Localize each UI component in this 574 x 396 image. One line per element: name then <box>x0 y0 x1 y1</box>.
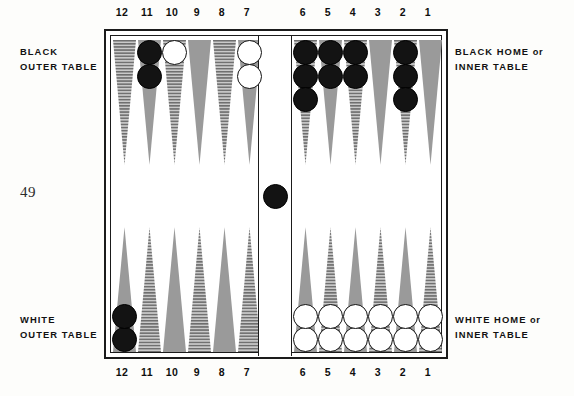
label-black-home-line2: INNER TABLE <box>455 60 543 75</box>
checker-white-point-bottom-5[interactable] <box>318 304 343 329</box>
point-bottom-11[interactable] <box>138 227 161 352</box>
checker-white-point-bottom-2[interactable] <box>393 304 418 329</box>
checker-black-point-top-2[interactable] <box>393 87 418 112</box>
quadrant-white-home-table <box>292 196 445 356</box>
quadrant-black-outer-table <box>111 36 258 196</box>
page-number: 49 <box>20 184 36 201</box>
label-black-outer-table: BLACK OUTER TABLE <box>20 45 98 74</box>
point-number-top-5: 5 <box>316 6 340 18</box>
label-white-home-main: WHITE HOME <box>455 314 526 325</box>
label-black-home-line1: BLACK HOME or <box>455 45 543 60</box>
point-number-top-4: 4 <box>341 6 365 18</box>
checker-white-point-bottom-1[interactable] <box>418 327 443 352</box>
checker-white-point-bottom-3[interactable] <box>368 304 393 329</box>
quadrant-white-outer-table <box>111 196 258 356</box>
board-inner-frame <box>110 35 442 353</box>
point-number-bottom-5: 5 <box>316 366 340 378</box>
point-number-top-6: 6 <box>291 6 315 18</box>
checker-white-point-top-7[interactable] <box>237 40 262 65</box>
point-number-top-1: 1 <box>416 6 440 18</box>
point-bottom-10[interactable] <box>163 227 186 352</box>
checker-black-point-top-6[interactable] <box>293 40 318 65</box>
checker-white-point-top-7[interactable] <box>237 64 262 89</box>
point-top-1[interactable] <box>419 40 442 165</box>
point-number-bottom-6: 6 <box>291 366 315 378</box>
point-number-bottom-11: 11 <box>135 366 159 378</box>
point-number-top-8: 8 <box>210 6 234 18</box>
point-number-top-2: 2 <box>391 6 415 18</box>
backgammon-diagram: 49 BLACK OUTER TABLE WHITE OUTER TABLE B… <box>0 0 574 396</box>
checker-white-point-bottom-4[interactable] <box>343 327 368 352</box>
point-number-top-11: 11 <box>135 6 159 18</box>
checker-black-point-top-4[interactable] <box>343 40 368 65</box>
label-black-outer-line1: BLACK <box>20 45 98 60</box>
point-number-bottom-10: 10 <box>160 366 184 378</box>
checker-white-point-bottom-4[interactable] <box>343 304 368 329</box>
point-number-row-top: 121110987654321 <box>105 6 447 22</box>
point-number-top-10: 10 <box>160 6 184 18</box>
point-number-bottom-12: 12 <box>110 366 134 378</box>
point-top-8[interactable] <box>213 40 236 165</box>
label-black-home-main: BLACK HOME <box>455 46 529 57</box>
checker-black-point-bottom-12[interactable] <box>112 304 137 329</box>
checker-black-point-top-4[interactable] <box>343 64 368 89</box>
point-number-bottom-1: 1 <box>416 366 440 378</box>
point-number-top-9: 9 <box>185 6 209 18</box>
checker-black-point-top-11[interactable] <box>137 64 162 89</box>
label-black-outer-line2: OUTER TABLE <box>20 60 98 75</box>
point-bottom-9[interactable] <box>188 227 211 352</box>
point-number-top-3: 3 <box>366 6 390 18</box>
point-number-top-12: 12 <box>110 6 134 18</box>
point-number-bottom-9: 9 <box>185 366 209 378</box>
board-outer-frame <box>104 29 448 359</box>
point-top-3[interactable] <box>369 40 392 165</box>
label-white-outer-table: WHITE OUTER TABLE <box>20 313 98 342</box>
checker-white-point-top-10[interactable] <box>162 40 187 65</box>
checker-white-point-bottom-3[interactable] <box>368 327 393 352</box>
checker-white-point-bottom-6[interactable] <box>293 327 318 352</box>
checker-black-point-bottom-12[interactable] <box>112 327 137 352</box>
checker-black-point-top-5[interactable] <box>318 40 343 65</box>
checker-black-point-top-6[interactable] <box>293 87 318 112</box>
point-number-bottom-8: 8 <box>210 366 234 378</box>
label-white-outer-line1: WHITE <box>20 313 98 328</box>
point-number-top-7: 7 <box>235 6 259 18</box>
label-white-home-table: WHITE HOME or INNER TABLE <box>455 313 540 342</box>
label-black-home-or: or <box>533 47 543 57</box>
label-white-outer-line2: OUTER TABLE <box>20 328 98 343</box>
checker-black-point-top-2[interactable] <box>393 64 418 89</box>
label-white-home-line2: INNER TABLE <box>455 328 540 343</box>
point-number-bottom-4: 4 <box>341 366 365 378</box>
point-number-bottom-7: 7 <box>235 366 259 378</box>
checker-white-point-bottom-5[interactable] <box>318 327 343 352</box>
point-top-9[interactable] <box>188 40 211 165</box>
checker-white-point-bottom-1[interactable] <box>418 304 443 329</box>
label-white-home-or: or <box>530 315 540 325</box>
checker-black-point-top-5[interactable] <box>318 64 343 89</box>
quadrant-black-home-table <box>292 36 445 196</box>
checker-black-point-top-11[interactable] <box>137 40 162 65</box>
point-number-bottom-2: 2 <box>391 366 415 378</box>
label-white-home-line1: WHITE HOME or <box>455 313 540 328</box>
label-black-home-table: BLACK HOME or INNER TABLE <box>455 45 543 74</box>
point-number-bottom-3: 3 <box>366 366 390 378</box>
checker-white-point-bottom-6[interactable] <box>293 304 318 329</box>
checker-black-point-top-6[interactable] <box>293 64 318 89</box>
checker-white-point-bottom-2[interactable] <box>393 327 418 352</box>
point-top-12[interactable] <box>113 40 136 165</box>
point-bottom-8[interactable] <box>213 227 236 352</box>
checker-black-point-top-2[interactable] <box>393 40 418 65</box>
bar-checker-black[interactable] <box>263 184 288 209</box>
point-number-row-bottom: 121110987654321 <box>105 366 447 382</box>
